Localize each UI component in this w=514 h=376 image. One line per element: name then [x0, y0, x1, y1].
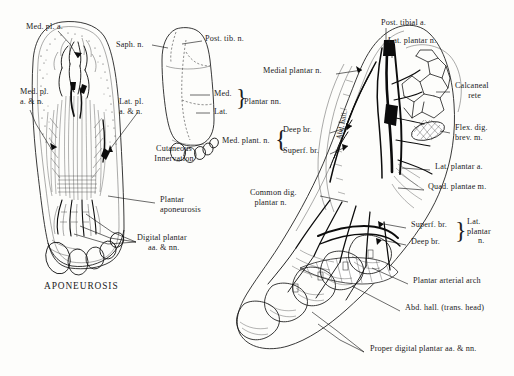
- label-lat-pl-a-n: Lat. pl. a. & n.: [119, 97, 144, 116]
- label-plantar-nn: Plantar nn.: [244, 97, 281, 107]
- label-plantar-arterial-arch: Plantar arterial arch: [413, 276, 481, 286]
- label-superf-br-med: Superf. br.: [283, 146, 319, 156]
- label-lat-plantar-n-top: Lat. plantar n.: [388, 36, 436, 46]
- label-post-tibial-a: Post. tibial a.: [381, 18, 426, 28]
- label-abd-hall-trans-head: Abd. hall. (trans. head): [405, 303, 484, 313]
- label-digital-plantar-aa-nn: Digital plantar aa. & nn.: [137, 233, 187, 252]
- label-common-dig-plantar-n: Common dig. plantar n.: [250, 188, 297, 207]
- label-saph-n: Saph. n.: [116, 40, 144, 50]
- caption-cutaneous-line2: Innervation: [143, 154, 205, 164]
- label-post-tib-n: Post. tib. n.: [205, 34, 244, 44]
- label-medial-plantar-n: Medial plantar n.: [263, 66, 322, 76]
- label-med-pl-a: Med. pl. a.: [26, 22, 63, 32]
- anatomical-plate: Abd. hall. Med. pl. a. Med. pl. a. & n. …: [0, 0, 514, 376]
- center-figure-art: [152, 28, 220, 163]
- label-plantar-aponeurosis: Plantar aponeurosis: [160, 195, 201, 214]
- label-lat-plantar-n-bracket: Lat. plantar n.: [467, 217, 491, 246]
- label-deep-br-lat: Deep br.: [411, 237, 440, 247]
- left-leaders: [30, 31, 155, 244]
- label-proper-digital-plantar: Proper digital plantar aa. & nn.: [370, 344, 476, 354]
- label-quad-plantae-m: Quad. plantae m.: [428, 182, 486, 192]
- label-med-pl-a-n: Med. pl. a. & n.: [20, 87, 49, 106]
- bracket-lat-plantar-n: }: [455, 218, 467, 242]
- label-calcaneal-rete: Calcaneal rete: [455, 81, 489, 100]
- center-leaders: [152, 41, 210, 113]
- label-lat-plantar-a: Lat. plantar a.: [435, 162, 483, 172]
- label-flex-dig-brev-m: Flex. dig. brev. m.: [455, 123, 488, 142]
- caption-aponeurosis: APONEUROSIS: [44, 281, 119, 291]
- label-superf-br-lat: Superf. br.: [411, 220, 447, 230]
- label-med: Med.: [214, 89, 232, 99]
- caption-cutaneous-line1: Cutaneous: [143, 144, 205, 154]
- label-lat: Lat.: [214, 107, 228, 117]
- label-med-plant-n: Med. plant. n.: [222, 136, 270, 146]
- label-deep-br-med: Deep br.: [283, 125, 312, 135]
